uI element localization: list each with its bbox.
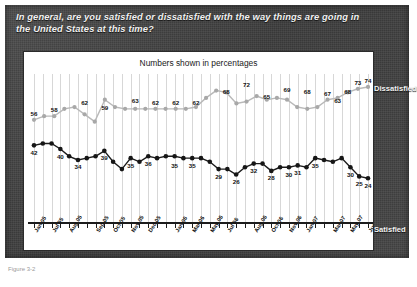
satisfied-value-label: 24 (365, 182, 372, 189)
satisfied-marker (58, 147, 63, 152)
satisfied-marker (287, 165, 292, 170)
x-tick (166, 224, 167, 228)
satisfied-marker (164, 154, 169, 159)
satisfied-marker (146, 154, 151, 159)
satisfied-value-label: 29 (215, 173, 222, 180)
dissatisfied-value-label: 72 (243, 81, 250, 88)
satisfied-value-label: 30 (285, 171, 292, 178)
dissatisfied-marker (103, 98, 107, 102)
dissatisfied-marker (72, 105, 76, 109)
satisfied-value-label: 39 (101, 154, 108, 161)
satisfied-marker (181, 156, 186, 161)
satisfied-value-label: 35 (312, 162, 319, 169)
dissatisfied-value-label: 68 (304, 88, 311, 95)
dissatisfied-marker (174, 107, 178, 111)
dissatisfied-value-label: 68 (223, 88, 230, 95)
figure-caption: Figure 3-2 (8, 266, 35, 272)
satisfied-marker (295, 163, 300, 168)
dissatisfied-marker (275, 96, 279, 100)
satisfied-value-label: 35 (171, 162, 178, 169)
satisfied-marker (216, 167, 221, 172)
satisfied-marker (120, 167, 125, 172)
dissatisfied-marker (52, 114, 56, 118)
satisfied-value-label: 25 (356, 180, 363, 187)
satisfied-value-label: 34 (74, 163, 81, 170)
dissatisfied-marker (315, 105, 319, 109)
satisfied-marker (84, 156, 89, 161)
dissatisfied-value-label: 62 (172, 99, 179, 106)
dissatisfied-value-label: 73 (354, 79, 361, 86)
satisfied-marker (67, 154, 72, 159)
dissatisfied-marker (234, 101, 238, 105)
dissatisfied-value-label: 69 (284, 86, 291, 93)
dissatisfied-marker (133, 107, 137, 111)
dissatisfied-value-label: 68 (344, 88, 351, 95)
dissatisfied-marker (295, 105, 299, 109)
satisfied-marker (172, 154, 177, 159)
x-tick (87, 224, 88, 228)
satisfied-marker (32, 143, 37, 148)
satisfied-marker (155, 156, 160, 161)
satisfied-value-label: 42 (31, 149, 38, 156)
dissatisfied-value-label: 59 (101, 104, 108, 111)
series-label-satisfied: Satisfied (374, 225, 406, 234)
dissatisfied-marker (305, 107, 309, 111)
satisfied-marker (348, 165, 353, 170)
satisfied-value-label: 35 (127, 162, 134, 169)
dissatisfied-marker (204, 96, 208, 100)
dissatisfied-marker (143, 107, 147, 111)
satisfied-marker (199, 156, 204, 161)
satisfied-marker (76, 158, 81, 163)
satisfied-marker (278, 165, 283, 170)
satisfied-marker (49, 141, 54, 146)
dissatisfied-marker (153, 107, 157, 111)
dissatisfied-marker (285, 98, 289, 102)
dissatisfied-marker (163, 107, 167, 111)
satisfied-marker (102, 149, 107, 154)
satisfied-value-label: 40 (57, 153, 64, 160)
satisfied-marker (357, 174, 362, 179)
satisfied-marker (93, 154, 98, 159)
dissatisfied-value-label: 67 (324, 90, 331, 97)
satisfied-marker (225, 167, 230, 172)
dissatisfied-marker (123, 107, 127, 111)
satisfied-value-label: 28 (268, 174, 275, 181)
satisfied-marker (234, 172, 239, 177)
satisfied-marker (40, 141, 45, 146)
dissatisfied-value-label: 62 (192, 99, 199, 106)
satisfied-marker (128, 156, 133, 161)
dissatisfied-marker (244, 99, 248, 103)
dissatisfied-value-label: 74 (365, 77, 372, 84)
satisfied-marker (111, 159, 116, 164)
dissatisfied-marker (42, 114, 46, 118)
dissatisfied-marker (325, 98, 329, 102)
dissatisfied-value-label: 58 (51, 106, 58, 113)
dissatisfied-marker (93, 120, 97, 124)
satisfied-value-label: 31 (294, 169, 301, 176)
satisfied-marker (304, 165, 309, 170)
satisfied-value-label: 36 (145, 160, 152, 167)
dissatisfied-value-label: 63 (334, 97, 341, 104)
x-tick (245, 224, 246, 228)
satisfied-marker (260, 161, 265, 166)
plot-area: Numbers shown in percentages 56586259636… (23, 51, 374, 251)
satisfied-value-label: 35 (189, 162, 196, 169)
satisfied-value-label: 26 (233, 178, 240, 185)
satisfied-marker (339, 156, 344, 161)
dissatisfied-marker (356, 87, 360, 91)
satisfied-marker (190, 156, 195, 161)
dissatisfied-value-label: 56 (31, 110, 38, 117)
satisfied-marker (137, 159, 142, 164)
dissatisfied-value-label: 62 (152, 99, 159, 106)
satisfied-value-label: 32 (250, 167, 257, 174)
satisfied-marker (243, 165, 248, 170)
dissatisfied-value-label: 63 (132, 97, 139, 104)
dissatisfied-marker (83, 112, 87, 116)
series-label-dissatisfied: Dissatisfied (374, 84, 417, 93)
satisfied-marker (313, 156, 318, 161)
dissatisfied-marker (366, 85, 370, 89)
dissatisfied-value-label: 62 (81, 99, 88, 106)
dissatisfied-marker (32, 118, 36, 122)
x-tick (324, 224, 325, 228)
